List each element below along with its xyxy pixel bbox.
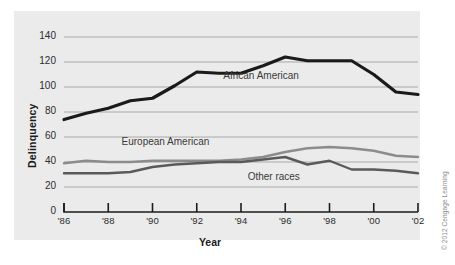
y-tick-label: 20 <box>22 180 56 191</box>
x-tick-label: '88 <box>93 215 123 226</box>
series-label-european-american: European American <box>122 136 210 147</box>
x-tick-label: '96 <box>270 215 300 226</box>
x-axis-title: Year <box>0 236 420 248</box>
series-label-other-races: Other races <box>248 171 300 182</box>
y-tick-label: 120 <box>22 55 56 66</box>
series-label-african-american: African American <box>223 70 299 81</box>
x-tickmarks-group <box>64 203 418 212</box>
x-tick-label: '02 <box>403 215 433 226</box>
y-tick-label: 100 <box>22 80 56 91</box>
x-tick-label: '98 <box>315 215 345 226</box>
copyright-notice: © 2012 Cengage Learning <box>441 171 448 250</box>
y-axis-title: Delinquency <box>26 103 38 168</box>
delinquency-line-chart-figure: 020406080100120140 '86'88'90'92'94'96'98… <box>0 0 455 265</box>
gridlines-group <box>64 37 418 187</box>
x-tick-label: '86 <box>49 215 79 226</box>
x-tick-label: '90 <box>138 215 168 226</box>
x-tick-label: '94 <box>226 215 256 226</box>
x-tick-label: '92 <box>182 215 212 226</box>
y-tick-label: 140 <box>22 30 56 41</box>
x-tick-label: '00 <box>359 215 389 226</box>
series-line <box>64 57 418 120</box>
